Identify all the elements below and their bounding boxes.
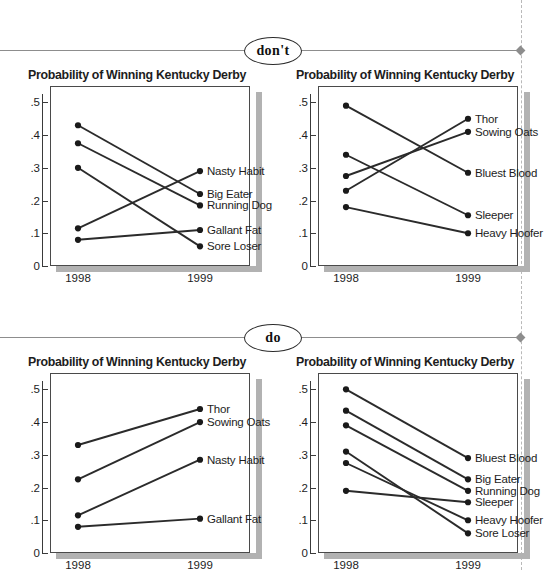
y-axis-tick [42,455,48,456]
y-axis-tick-label: .4 [286,416,308,428]
y-axis-tick-label: .3 [18,162,40,174]
series-label: Sore Loser [207,240,261,252]
y-axis-tick [310,422,316,423]
y-axis-tick-label: .1 [286,514,308,526]
chart-title: Probability of Winning Kentucky Derby [28,355,269,369]
data-point [343,422,349,428]
divider-rule-do-right [296,337,521,338]
series-line [78,460,200,516]
series-label: Thor [475,113,498,125]
data-point [197,243,203,249]
series-line [346,155,468,216]
data-point [465,530,471,536]
y-axis-tick-label: .4 [18,129,40,141]
y-axis-tick-label: 0 [286,547,308,559]
y-axis-tick [310,233,316,234]
series-line [78,143,200,205]
series-line [78,422,200,479]
series-line [346,389,468,458]
series-label: Big Eater [475,473,521,485]
y-axis-tick-label: .2 [18,482,40,494]
y-axis-tick-label: .1 [286,227,308,239]
series-label: Sleeper [475,496,513,508]
data-point [75,165,81,171]
series-label: Bluest Blood [475,452,537,464]
data-point [75,122,81,128]
series-line [346,207,468,233]
data-point [197,516,203,522]
data-point [343,488,349,494]
data-point [465,488,471,494]
data-point [343,460,349,466]
y-axis-tick-label: .5 [18,383,40,395]
series-label: Sleeper [475,209,513,221]
data-point [75,476,81,482]
data-point [343,448,349,454]
data-point [343,408,349,414]
y-axis-tick-label: .3 [286,449,308,461]
chart-panel-dont-left: Probability of Winning Kentucky Derby0.1… [14,68,269,293]
y-axis-line [310,381,311,553]
y-axis-tick [310,135,316,136]
series-label: Heavy Hoofer [475,227,543,239]
data-point [75,512,81,518]
y-axis-tick-label: 0 [18,547,40,559]
y-axis-line [310,94,311,266]
divider-rule-dont-right [296,50,521,51]
y-axis-tick-label: .2 [286,482,308,494]
data-point [465,116,471,122]
y-axis-tick [42,102,48,103]
data-point [197,457,203,463]
data-point [465,476,471,482]
x-axis-tick-label: 1998 [333,272,359,284]
y-axis-tick-label: .2 [286,195,308,207]
data-point [75,225,81,231]
y-axis-tick [42,488,48,489]
data-point [197,191,203,197]
data-point [465,230,471,236]
x-axis-tick-label: 1999 [455,559,481,570]
y-axis-tick [42,201,48,202]
series-label: Running Dog [207,199,272,211]
y-axis-tick [42,233,48,234]
y-axis-tick [42,135,48,136]
rail-marker-dont [516,46,526,56]
series-label: Gallant Fat [207,224,261,236]
y-axis-tick-label: .5 [18,96,40,108]
y-axis-tick-label: 0 [18,260,40,272]
x-axis-tick-label: 1998 [65,559,91,570]
data-point [75,237,81,243]
x-axis-tick-label: 1999 [187,272,213,284]
data-point [465,499,471,505]
divider-rule-dont-left [0,50,249,51]
badge-do: do [244,324,302,352]
series-line [78,409,200,445]
chart-panel-dont-right: Probability of Winning Kentucky Derby0.1… [282,68,537,293]
plot-area: 0.1.2.3.4.5Bluest BloodSleeperSowing Oat… [288,86,526,282]
chart-title: Probability of Winning Kentucky Derby [296,68,537,82]
series-line [78,125,200,194]
badge-dont: don't [244,37,302,65]
y-axis-tick [42,168,48,169]
plot-area: 0.1.2.3.4.5Big EaterRunning DogSore Lose… [20,86,258,282]
series-label: Nasty Habit [207,165,264,177]
series-label: Sore Loser [475,527,529,539]
data-point [465,455,471,461]
x-axis-tick-label: 1998 [333,559,359,570]
y-axis-tick-label: .3 [286,162,308,174]
series-label: Running Dog [475,485,540,497]
series-label: Bluest Blood [475,167,537,179]
x-axis-labels: 19981999 [318,559,518,570]
series-label: Gallant Fat [207,513,261,525]
frame-shadow-right [524,92,530,272]
data-point [343,386,349,392]
data-point [343,173,349,179]
data-point [343,188,349,194]
x-axis-labels: 19981999 [50,272,250,290]
chart-panel-do-right: Probability of Winning Kentucky Derby0.1… [282,355,537,570]
data-point [197,406,203,412]
y-axis-tick-label: 0 [286,260,308,272]
divider-rule-do-left [0,337,249,338]
y-axis-tick [42,389,48,390]
x-axis-labels: 19981999 [50,559,250,570]
